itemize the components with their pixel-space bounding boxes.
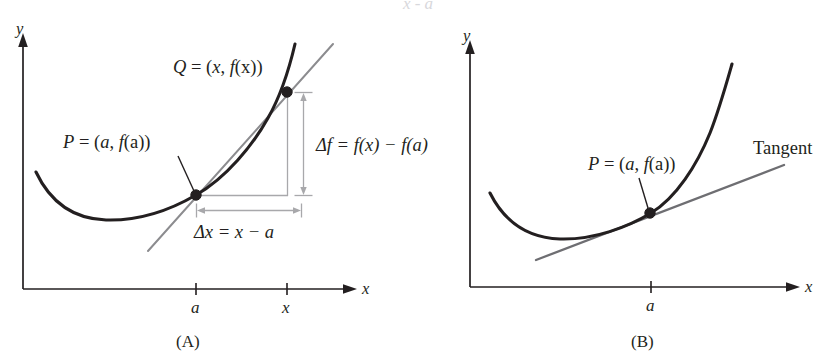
panel-b-caption: (B) (631, 332, 654, 351)
panel-b: P = (a, f(a)) Tangent y x a (B) (461, 26, 813, 351)
panel-b-label-tangent: Tangent (753, 138, 813, 158)
panel-a-caption: (A) (176, 332, 200, 351)
panel-a-point-p (191, 190, 201, 200)
panel-b-leader-p (639, 178, 648, 208)
panel-a-point-q (282, 87, 292, 97)
panel-b-point-p (645, 208, 655, 218)
panel-a-x-axis-label: x (361, 279, 370, 298)
panel-a-y-axis-label: y (14, 19, 24, 38)
panel-b-tangent-line (536, 165, 784, 260)
panel-a: Q = (x, f(x)) P = (a, f(a)) Δf = f(x) − … (14, 19, 428, 351)
panel-a-label-p: P = (a, f(a)) (62, 132, 151, 153)
panel-a-tick-label-a: a (191, 298, 200, 317)
panel-a-leader-p (178, 156, 194, 191)
panel-b-x-axis (470, 282, 800, 292)
panel-b-tick-label-a: a (646, 296, 655, 315)
panel-a-tick-label-x: x (281, 298, 290, 317)
figure-canvas: Q = (x, f(x)) P = (a, f(a)) Δf = f(x) − … (0, 0, 836, 362)
clipped-top-text: x - a (0, 0, 836, 12)
panel-a-x-axis (23, 284, 357, 294)
panel-b-curve (490, 64, 732, 239)
panel-b-label-p: P = (a, f(a)) (587, 154, 676, 175)
panel-b-y-axis-label: y (461, 26, 471, 45)
panel-a-delta-f-dimension (295, 93, 313, 196)
panel-a-delta-x-dimension (197, 204, 302, 218)
panel-b-y-axis (465, 40, 475, 287)
panel-b-x-axis-label: x (804, 277, 813, 296)
panel-a-label-delta-f: Δf = f(x) − f(a) (315, 135, 428, 156)
panel-a-label-q: Q = (x, f(x)) (173, 57, 263, 78)
figure-root: x - a (0, 0, 836, 362)
panel-a-label-delta-x: Δx = x − a (193, 222, 274, 242)
panel-a-y-axis (18, 33, 28, 289)
